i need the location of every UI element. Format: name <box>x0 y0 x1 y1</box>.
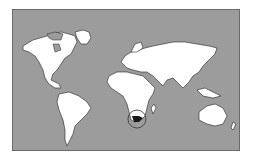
south-america <box>57 92 91 146</box>
madagascar <box>151 104 156 114</box>
new-zealand <box>231 122 236 130</box>
north-america <box>23 32 77 88</box>
southeast-asia-islands <box>197 88 221 98</box>
greenland <box>75 30 91 44</box>
australia <box>199 104 227 126</box>
world-map <box>13 10 240 151</box>
world-map-frame <box>12 9 240 151</box>
africa <box>107 72 155 122</box>
